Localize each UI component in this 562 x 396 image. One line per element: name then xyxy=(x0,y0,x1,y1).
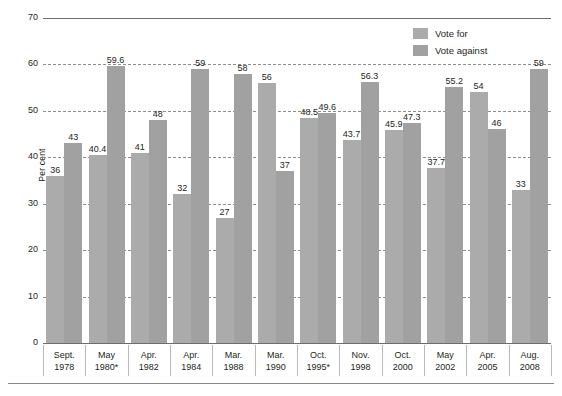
bar-value-label: 59 xyxy=(195,59,205,68)
bar-vote-for: 37.7 xyxy=(427,168,445,343)
x-category-year: 2000 xyxy=(382,362,424,374)
legend-swatch-icon xyxy=(413,45,428,56)
x-axis-line xyxy=(43,343,551,344)
bar-vote-for: 56 xyxy=(258,83,276,343)
bar-vote-for: 32 xyxy=(173,194,191,343)
bar-value-label: 54 xyxy=(473,82,483,91)
footer-divider xyxy=(8,383,554,384)
x-category-label: Sept.1978 xyxy=(43,350,85,373)
x-category-year: 1998 xyxy=(339,362,381,374)
bar-value-label: 56 xyxy=(262,73,272,82)
bar-vote-against: 49.6 xyxy=(318,113,336,343)
bar-value-label: 46 xyxy=(491,119,501,128)
bar-value-label: 47.3 xyxy=(403,113,421,122)
x-category-month: Sept. xyxy=(43,350,85,362)
bar-vote-for: 45.9 xyxy=(385,130,403,343)
bar-vote-against: 43 xyxy=(64,143,82,343)
y-tick-0: 0 xyxy=(14,338,38,347)
x-category-label: Apr.2005 xyxy=(466,350,508,373)
y-tick-60: 60 xyxy=(14,59,38,68)
x-category-year: 1988 xyxy=(212,362,254,374)
bar-group: 5446 xyxy=(470,18,506,343)
x-category-year: 1995* xyxy=(297,362,339,374)
bar-vote-for: 48.5 xyxy=(300,118,318,343)
bar-value-label: 32 xyxy=(177,184,187,193)
x-category-month: Mar. xyxy=(212,350,254,362)
bar-group: 40.459.6 xyxy=(89,18,125,343)
bar-value-label: 33 xyxy=(516,180,526,189)
legend-label: Vote for xyxy=(435,28,468,39)
bar-value-label: 56.3 xyxy=(361,72,379,81)
legend: Vote forVote against xyxy=(413,26,487,60)
bar-group: 5637 xyxy=(258,18,294,343)
x-category-month: Oct. xyxy=(297,350,339,362)
legend-swatch-icon xyxy=(413,28,428,39)
bar-group: 3359 xyxy=(512,18,548,343)
x-category-year: 1980* xyxy=(85,362,127,374)
bar-value-label: 36 xyxy=(50,166,60,175)
x-category-month: Mar. xyxy=(255,350,297,362)
x-category-label: Oct.1995* xyxy=(297,350,339,373)
bar-value-label: 55.2 xyxy=(445,77,463,86)
bar-value-label: 49.6 xyxy=(318,103,336,112)
x-category-label: May1980* xyxy=(85,350,127,373)
bar-value-label: 37.7 xyxy=(427,158,445,167)
x-category-year: 1990 xyxy=(255,362,297,374)
bar-value-label: 37 xyxy=(280,161,290,170)
bar-vote-against: 55.2 xyxy=(445,87,463,343)
y-tick-70: 70 xyxy=(14,13,38,22)
x-category-label: Aug.2008 xyxy=(509,350,551,373)
bar-group: 43.756.3 xyxy=(343,18,379,343)
x-axis-separator xyxy=(551,345,552,376)
bar-group: 45.947.3 xyxy=(385,18,421,343)
bar-chart: Per cent 706050403020100 364340.459.6414… xyxy=(0,0,562,396)
x-category-label: Mar.1990 xyxy=(255,350,297,373)
x-category-label: Oct.2000 xyxy=(382,350,424,373)
legend-item-vote-against[interactable]: Vote against xyxy=(413,43,487,58)
bar-value-label: 59.6 xyxy=(107,56,125,65)
bar-group: 2758 xyxy=(216,18,252,343)
x-category-year: 1984 xyxy=(170,362,212,374)
x-category-month: Oct. xyxy=(382,350,424,362)
bar-value-label: 43.7 xyxy=(343,130,361,139)
bar-vote-against: 47.3 xyxy=(403,123,421,343)
bar-value-label: 43 xyxy=(68,133,78,142)
bar-value-label: 48 xyxy=(153,110,163,119)
x-category-month: May xyxy=(85,350,127,362)
x-category-month: Apr. xyxy=(170,350,212,362)
x-category-label: Apr.1984 xyxy=(170,350,212,373)
bar-vote-against: 48 xyxy=(149,120,167,343)
y-tick-20: 20 xyxy=(14,245,38,254)
bar-value-label: 40.4 xyxy=(89,145,107,154)
y-tick-40: 40 xyxy=(14,152,38,161)
bar-vote-for: 40.4 xyxy=(89,155,107,343)
x-category-year: 2002 xyxy=(424,362,466,374)
bar-group: 37.755.2 xyxy=(427,18,463,343)
bar-vote-against: 58 xyxy=(234,74,252,343)
bar-value-label: 41 xyxy=(135,143,145,152)
x-category-label: May2002 xyxy=(424,350,466,373)
bar-vote-for: 33 xyxy=(512,190,530,343)
bar-group: 4148 xyxy=(131,18,167,343)
y-tick-10: 10 xyxy=(14,292,38,301)
plot-area: 364340.459.6414832592758563748.549.643.7… xyxy=(43,18,551,343)
bar-vote-for: 27 xyxy=(216,218,234,343)
bar-vote-against: 59 xyxy=(191,69,209,343)
x-category-year: 2005 xyxy=(466,362,508,374)
x-category-month: Aug. xyxy=(509,350,551,362)
legend-item-vote-for[interactable]: Vote for xyxy=(413,26,487,41)
bar-vote-against: 59.6 xyxy=(107,66,125,343)
bar-vote-against: 37 xyxy=(276,171,294,343)
bar-vote-for: 54 xyxy=(470,92,488,343)
x-category-label: Mar.1988 xyxy=(212,350,254,373)
x-category-year: 1982 xyxy=(128,362,170,374)
x-category-label: Nov.1998 xyxy=(339,350,381,373)
x-category-month: Nov. xyxy=(339,350,381,362)
bar-vote-for: 36 xyxy=(46,176,64,343)
bar-group: 3259 xyxy=(173,18,209,343)
bar-value-label: 27 xyxy=(219,208,229,217)
bar-group: 3643 xyxy=(46,18,82,343)
bar-value-label: 48.5 xyxy=(300,108,318,117)
x-category-year: 1978 xyxy=(43,362,85,374)
bar-value-label: 59 xyxy=(534,59,544,68)
